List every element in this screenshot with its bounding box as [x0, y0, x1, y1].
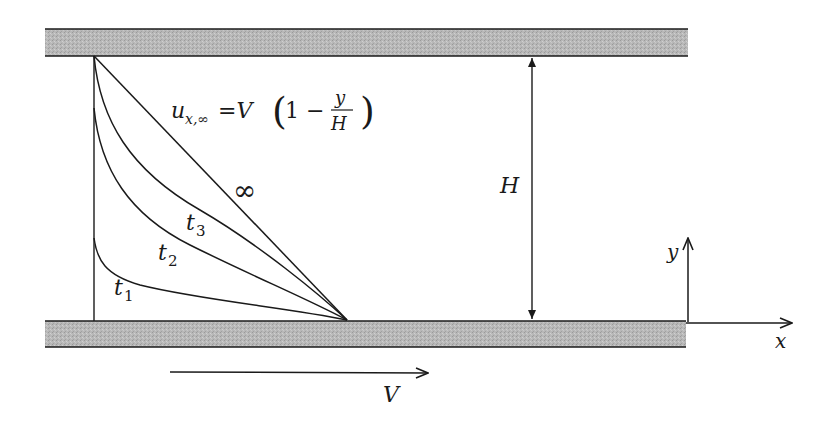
svg-text:1 −: 1 − — [285, 98, 324, 123]
svg-text:1: 1 — [124, 287, 134, 305]
svg-text:3: 3 — [196, 222, 206, 240]
profile-t1 — [94, 238, 347, 320]
couette-flow-diagram: u x,∞ =V ( 1 − y H ) ∞ t 3 t 2 t 1 H y x… — [0, 0, 832, 423]
x-axis-label: x — [775, 329, 786, 353]
wall-velocity-arrow — [170, 372, 428, 373]
steady-state-formula: u x,∞ =V ( 1 − y H ) — [171, 87, 375, 134]
bottom-wall — [45, 321, 686, 347]
svg-text:): ) — [360, 89, 375, 133]
label-infinity: ∞ — [233, 174, 256, 207]
svg-text:t: t — [114, 275, 123, 300]
profile-infinity — [94, 56, 347, 320]
label-t2: t 2 — [158, 240, 178, 270]
svg-text:2: 2 — [168, 252, 178, 270]
svg-text:u: u — [171, 98, 185, 123]
label-t3: t 3 — [186, 210, 206, 240]
svg-text:H: H — [330, 113, 347, 134]
svg-text:t: t — [158, 240, 167, 265]
svg-text:=V: =V — [218, 98, 254, 123]
label-gap-H: H — [499, 173, 520, 198]
label-velocity-V: V — [383, 382, 401, 407]
top-wall — [45, 29, 688, 56]
svg-text:x,∞: x,∞ — [185, 111, 209, 127]
svg-text:y: y — [334, 87, 346, 108]
svg-text:t: t — [186, 210, 195, 235]
y-axis-label: y — [666, 240, 679, 264]
